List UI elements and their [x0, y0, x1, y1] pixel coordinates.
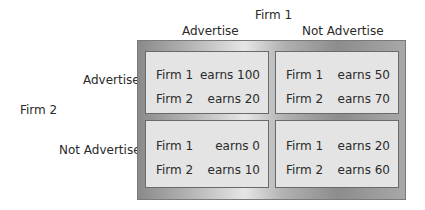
payoff-matrix-frame: Firm 1 earns 100 Firm 2 earns 20 Firm 1 … [137, 40, 406, 200]
payoff-value: earns 20 [338, 139, 390, 153]
firm-label: Firm 2 [156, 92, 193, 106]
firm-label: Firm 1 [156, 139, 193, 153]
cell-row-firm2: Firm 2 earns 60 [286, 163, 390, 177]
cell-not-advertise-advertise: Firm 1 earns 0 Firm 2 earns 10 [145, 120, 269, 188]
cell-row-firm2: Firm 2 earns 70 [286, 92, 390, 106]
firm-label: Firm 2 [156, 163, 193, 177]
payoff-value: earns 10 [208, 163, 260, 177]
cell-row-firm1: Firm 1 earns 100 [156, 68, 260, 82]
payoff-value: earns 100 [200, 68, 260, 82]
cell-advertise-advertise: Firm 1 earns 100 Firm 2 earns 20 [145, 51, 269, 114]
row-header-advertise: Advertise [83, 73, 140, 87]
firm-label: Firm 2 [286, 92, 323, 106]
payoff-value: earns 0 [215, 139, 260, 153]
cell-row-firm1: Firm 1 earns 20 [286, 139, 390, 153]
cell-row-firm2: Firm 2 earns 20 [156, 92, 260, 106]
cell-row-firm1: Firm 1 earns 50 [286, 68, 390, 82]
cell-row-firm1: Firm 1 earns 0 [156, 139, 260, 153]
cell-not-advertise-not-advertise: Firm 1 earns 20 Firm 2 earns 60 [275, 120, 399, 188]
cell-row-firm2: Firm 2 earns 10 [156, 163, 260, 177]
firm-label: Firm 1 [286, 68, 323, 82]
payoff-value: earns 60 [338, 163, 390, 177]
row-player-label: Firm 2 [20, 103, 57, 117]
firm-label: Firm 2 [286, 163, 323, 177]
payoff-value: earns 70 [338, 92, 390, 106]
column-header-advertise: Advertise [182, 24, 239, 38]
column-header-not-advertise: Not Advertise [302, 24, 384, 38]
firm-label: Firm 1 [286, 139, 323, 153]
payoff-value: earns 20 [208, 92, 260, 106]
column-player-label: Firm 1 [255, 8, 292, 22]
payoff-value: earns 50 [338, 68, 390, 82]
row-header-not-advertise: Not Advertise [59, 143, 141, 157]
firm-label: Firm 1 [156, 68, 193, 82]
cell-advertise-not-advertise: Firm 1 earns 50 Firm 2 earns 70 [275, 51, 399, 114]
